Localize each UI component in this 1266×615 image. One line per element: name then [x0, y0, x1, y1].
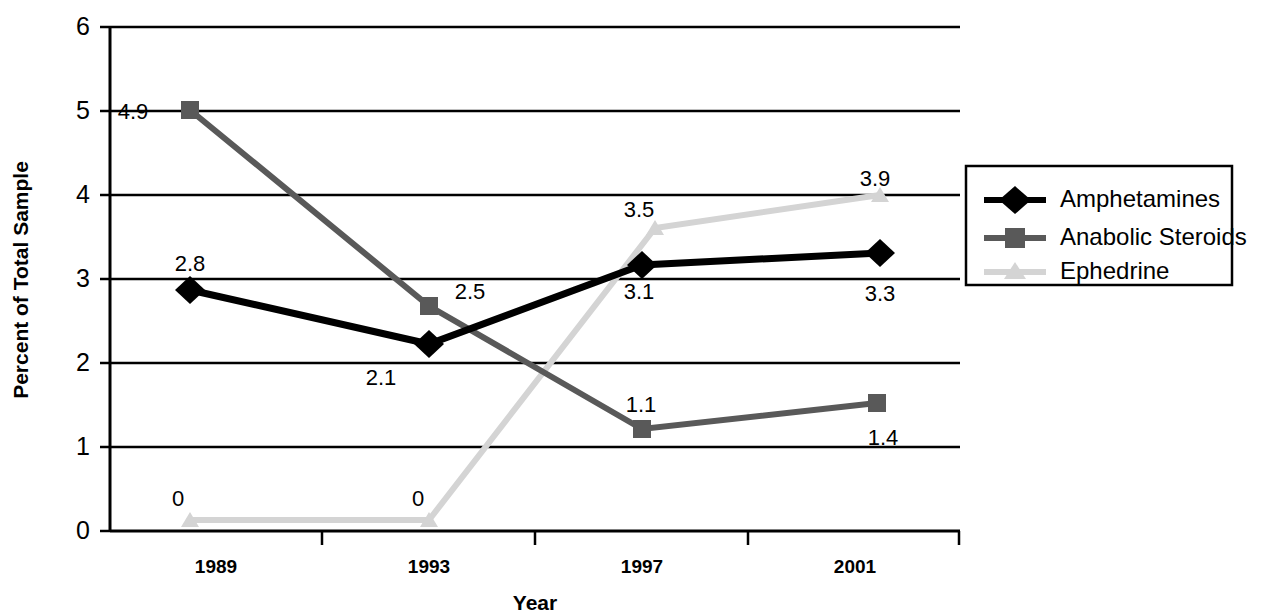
x-tick-label-1989: 1989: [195, 556, 237, 577]
y-tick-label-0: 0: [76, 516, 90, 544]
data-label-steroids-2001: 1.4: [868, 425, 899, 450]
x-tick-label-1993: 1993: [408, 556, 450, 577]
x-tick-marks: [322, 531, 959, 545]
data-label-eph-2001: 3.9: [860, 166, 891, 191]
legend-label-ephedrine: Ephedrine: [1060, 257, 1169, 284]
series-amphetamines: [175, 239, 895, 358]
legend-label-amphetamines: Amphetamines: [1060, 185, 1220, 212]
y-axis-title: Percent of Total Sample: [9, 161, 32, 399]
chart-container: 6 5 4 3 2 1 0 1989 1993 1997 2001 Year P…: [0, 0, 1266, 615]
legend: Amphetamines Anabolic Steroids Ephedrine: [966, 166, 1247, 285]
x-axis-title: Year: [513, 591, 557, 614]
amphetamines-marker-2001: [865, 239, 895, 267]
steroids-marker-1993: [420, 297, 438, 315]
steroids-marker-2001: [868, 394, 886, 412]
x-tick-label-2001: 2001: [834, 556, 877, 577]
data-label-amp-1997: 3.1: [624, 279, 655, 304]
x-tick-label-1997: 1997: [621, 556, 663, 577]
steroids-marker-1989: [181, 101, 199, 119]
data-label-eph-1989: 0: [172, 486, 184, 511]
data-label-amp-1989: 2.8: [175, 251, 206, 276]
y-tick-label-6: 6: [76, 12, 90, 40]
amphetamines-line: [190, 253, 880, 344]
y-tick-label-1: 1: [76, 432, 90, 460]
data-labels: 4.9 2.8 0 2.5 2.1 0 3.5 3.1 1.1 3.9 3.3 …: [118, 99, 899, 511]
line-chart: 6 5 4 3 2 1 0 1989 1993 1997 2001 Year P…: [0, 0, 1266, 615]
data-label-amp-1993: 2.1: [366, 365, 397, 390]
series-ephedrine: [181, 187, 889, 527]
ephedrine-line: [190, 195, 880, 520]
data-label-eph-1993: 0: [412, 486, 424, 511]
y-tick-label-5: 5: [76, 96, 90, 124]
y-tick-label-4: 4: [76, 180, 90, 208]
data-label-steroids-1997: 1.1: [626, 392, 657, 417]
y-tick-label-3: 3: [76, 264, 90, 292]
amphetamines-marker-1993: [414, 330, 444, 358]
data-label-steroids-1993: 2.5: [455, 279, 486, 304]
data-label-amp-2001: 3.3: [865, 281, 896, 306]
data-label-eph-1997: 3.5: [624, 197, 655, 222]
square-icon: [1005, 228, 1025, 248]
y-tick-label-2: 2: [76, 348, 90, 376]
legend-label-anabolic-steroids: Anabolic Steroids: [1060, 223, 1247, 250]
data-label-steroids-1989: 4.9: [118, 99, 149, 124]
steroids-marker-1997: [633, 420, 651, 438]
